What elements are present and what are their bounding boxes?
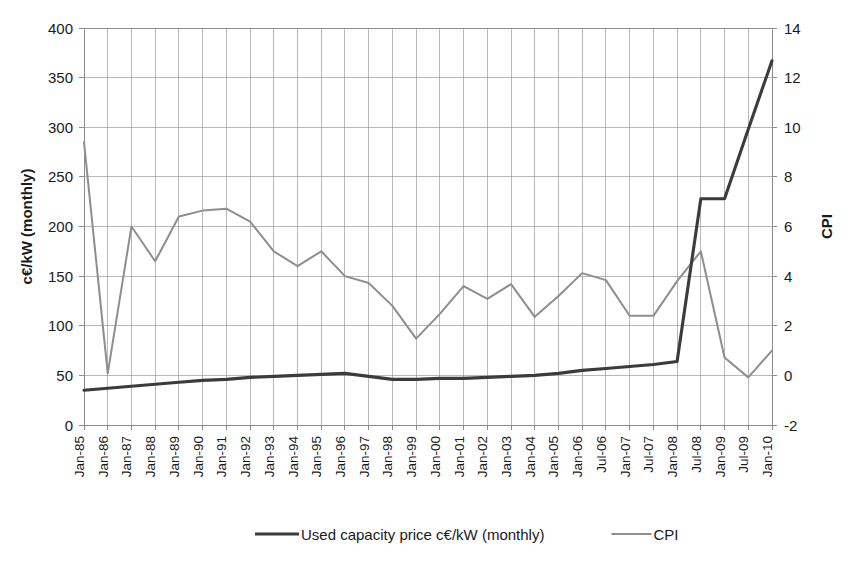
y2-axis-tick-label: 8	[784, 168, 792, 185]
x-axis-tick-label: Jan-88	[143, 436, 158, 477]
chart-legend: Used capacity price c€/kW (monthly)CPI	[255, 526, 679, 543]
y-axis-tick-label: 250	[48, 168, 73, 185]
x-axis-tick-label: Jan-00	[428, 436, 443, 477]
y-axis-title: c€/kW (monthly)	[18, 169, 35, 285]
x-axis-tick-label: Jan-03	[499, 436, 514, 477]
x-axis-tick-label: Jan-90	[191, 436, 206, 477]
y-axis-tick-label: 150	[48, 268, 73, 285]
x-axis-tick-label: Jan-97	[357, 436, 372, 477]
y-axis-tick-label: 0	[65, 417, 73, 434]
x-axis-tick-label: Jan-96	[333, 436, 348, 477]
x-axis-tick-label: Jul-09	[736, 436, 751, 473]
y-axis-tick-label: 350	[48, 69, 73, 86]
x-axis-tick-label: Jul-06	[594, 436, 609, 473]
x-axis-tick-label: Jan-94	[286, 436, 301, 478]
legend-label-cpi[interactable]: CPI	[654, 526, 679, 543]
line-chart: 050100150200250300350400 -202468101214 J…	[0, 0, 851, 569]
y-axis-tick-label: 400	[48, 20, 73, 37]
y-axis-tick-label: 50	[56, 367, 73, 384]
y2-axis-tick-label: 14	[784, 20, 801, 37]
x-axis-tick-label: Jan-07	[618, 436, 633, 477]
y2-axis-tick-label: 6	[784, 218, 792, 235]
x-axis-tick-label: Jan-87	[119, 436, 134, 477]
x-axis-tick-label: Jan-93	[262, 436, 277, 477]
x-axis-tick-labels: Jan-85Jan-86Jan-87Jan-88Jan-89Jan-90Jan-…	[72, 436, 775, 478]
y-axis-tick-label: 100	[48, 317, 73, 334]
y2-axis-tick-label: 10	[784, 119, 801, 136]
y2-axis-tick-label: 0	[784, 367, 792, 384]
x-axis-tick-label: Jan-04	[523, 436, 538, 478]
x-axis-tick-label: Jan-91	[214, 436, 229, 477]
x-axis-tick-label: Jan-10	[760, 436, 775, 477]
y-axis-tick-label: 300	[48, 119, 73, 136]
y2-axis-tick-label: 2	[784, 317, 792, 334]
x-axis-tick-label: Jan-09	[713, 436, 728, 477]
x-axis-tick-label: Jan-01	[452, 436, 467, 477]
legend-label-used-capacity-price[interactable]: Used capacity price c€/kW (monthly)	[301, 526, 544, 543]
x-axis-tick-label: Jan-99	[404, 436, 419, 477]
y2-axis-title: CPI	[818, 214, 835, 239]
x-axis-tick-label: Jan-89	[167, 436, 182, 477]
chart-container: 050100150200250300350400 -202468101214 J…	[0, 0, 851, 569]
y2-axis-tick-label: 4	[784, 268, 792, 285]
y-axis-tick-labels: 050100150200250300350400	[48, 20, 73, 434]
series-line-cpi	[84, 142, 772, 377]
x-axis-tick-label: Jan-92	[238, 436, 253, 477]
x-axis-tick-label: Jan-86	[96, 436, 111, 477]
y2-axis-tick-label: -2	[784, 417, 797, 434]
chart-tick-marks	[79, 28, 777, 430]
chart-series-layer	[84, 61, 772, 391]
y2-axis-tick-label: 12	[784, 69, 801, 86]
y-axis-tick-label: 200	[48, 218, 73, 235]
x-axis-tick-label: Jan-95	[309, 436, 324, 477]
x-axis-tick-label: Jan-98	[380, 436, 395, 477]
x-axis-tick-label: Jan-85	[72, 436, 87, 477]
x-axis-tick-label: Jul-07	[641, 436, 656, 473]
x-axis-tick-label: Jan-08	[665, 436, 680, 477]
chart-gridlines	[84, 28, 772, 425]
y2-axis-tick-labels: -202468101214	[784, 20, 801, 434]
x-axis-tick-label: Jan-06	[570, 436, 585, 477]
x-axis-tick-label: Jan-05	[546, 436, 561, 477]
series-line-used-capacity-price	[84, 61, 772, 391]
x-axis-tick-label: Jul-08	[689, 436, 704, 473]
x-axis-tick-label: Jan-02	[475, 436, 490, 477]
